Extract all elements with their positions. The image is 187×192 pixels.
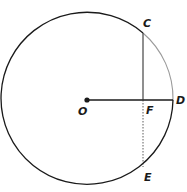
label-o: O [78,105,87,118]
label-c: C [143,17,151,30]
label-e: E [144,171,152,184]
label-d: D [176,94,185,107]
circle-diagram: C D E F O [0,0,187,192]
arc-cd [143,33,173,100]
center-point-o [84,97,89,102]
label-f: F [146,104,154,117]
